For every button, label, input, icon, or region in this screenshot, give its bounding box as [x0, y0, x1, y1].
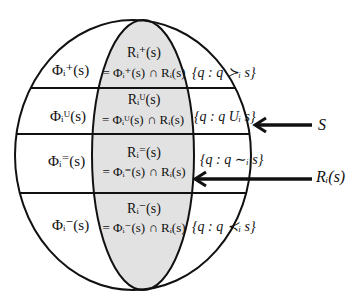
diagram-graphics	[0, 0, 360, 304]
r-U-label: Rᵢᵁ(s)	[118, 93, 170, 107]
phi-U-label: Φᵢᵁ(s)	[50, 109, 86, 124]
set-minus-definition: {q : q ≺ᵢ s}	[192, 220, 256, 234]
r-plus-label: Rᵢ⁺(s)	[118, 46, 170, 60]
phi-plus-label: Φᵢ⁺(s)	[52, 63, 89, 78]
set-plus-definition: {q : q ≻ᵢ s}	[192, 66, 256, 80]
r-equal-label: Rᵢ⁼(s)	[118, 146, 170, 160]
phi-equal-label: Φᵢ⁼(s)	[48, 154, 85, 169]
r-U-definition: = Φᵢᵁ(s) ∩ Rᵢ(s)	[97, 113, 189, 126]
arrow-to-S	[255, 118, 312, 132]
phi-minus-label: Φᵢ⁻(s)	[52, 218, 89, 233]
r-minus-label: Rᵢ⁻(s)	[118, 202, 170, 216]
outer-set-label: S	[318, 117, 326, 133]
r-equal-definition: = Φᵢ⁼(s) ∩ Rᵢ(s)	[98, 165, 190, 178]
set-U-definition: {q : q Uᵢ s}	[194, 110, 256, 124]
venn-diagram: Φᵢ⁺(s) Rᵢ⁺(s) = Φᵢ⁺(s) ∩ Rᵢ(s) {q : q ≻ᵢ…	[0, 0, 360, 304]
set-equal-definition: {q : q ∼ᵢ s}	[200, 153, 263, 167]
r-plus-definition: = Φᵢ⁺(s) ∩ Rᵢ(s)	[98, 66, 190, 79]
arrow-to-Ri	[195, 172, 312, 186]
inner-set-label: Rᵢ(s)	[316, 169, 345, 185]
r-minus-definition: = Φᵢ⁻(s) ∩ Rᵢ(s)	[98, 221, 190, 234]
